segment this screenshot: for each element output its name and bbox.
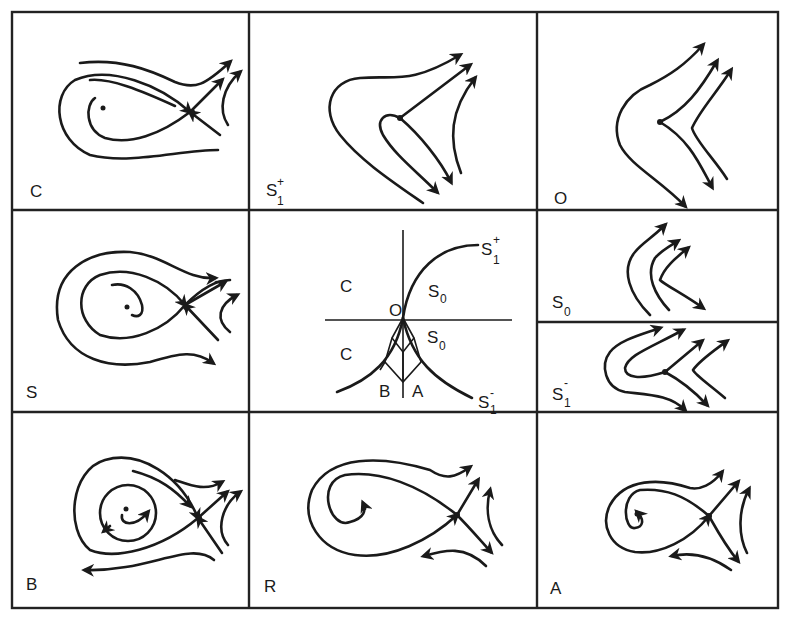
- panel-label-s1minus: S: [552, 385, 563, 404]
- phase-portrait-figure: C S + 1 O S: [0, 0, 785, 620]
- panel-label-a: A: [550, 579, 562, 598]
- diag-label-s1minus-sup: -: [490, 386, 494, 400]
- diag-label-s1minus-sub: 1: [490, 403, 497, 417]
- diag-label-origin: O: [389, 301, 402, 320]
- bifurcation-diagram: C C O S 0 S 0 B A S + 1 S - 1: [325, 230, 512, 417]
- panel-label-s1minus-sub: 1: [564, 396, 571, 410]
- panel-label-b: B: [26, 575, 37, 594]
- diag-label-s1plus-sup: +: [493, 233, 500, 247]
- panel-label-o: O: [554, 189, 567, 208]
- diag-label-s1plus-sub: 1: [493, 253, 500, 267]
- panel-label-r: R: [264, 577, 276, 596]
- diag-label-s0-upper-sub: 0: [440, 292, 447, 306]
- panel-s0: S 0: [552, 225, 703, 319]
- diag-label-s1minus: S: [478, 393, 489, 412]
- panel-label-s0-sub: 0: [564, 305, 571, 319]
- diag-label-s0-upper: S: [428, 282, 439, 301]
- diag-label-s0-lower: S: [427, 328, 438, 347]
- panel-c: C: [30, 62, 240, 201]
- panel-label-s0: S: [552, 293, 563, 312]
- panel-label-c: C: [30, 182, 42, 201]
- panel-label-s: S: [26, 383, 37, 402]
- panel-s1-plus: S + 1: [266, 55, 475, 208]
- panel-s1-minus: S - 1: [552, 328, 727, 410]
- panel-a: A: [550, 472, 749, 598]
- panel-label-s1plus: S: [266, 181, 277, 200]
- panel-o: O: [554, 45, 731, 208]
- diag-label-b: B: [379, 382, 390, 401]
- panel-r: R: [264, 460, 502, 596]
- diag-label-c-upper: C: [340, 277, 352, 296]
- panel-label-s1plus-sup: +: [277, 175, 284, 189]
- panel-s: S: [26, 252, 237, 402]
- panel-label-s1minus-sup: -: [564, 376, 568, 390]
- panel-label-s1plus-sub: 1: [277, 194, 284, 208]
- diag-label-s0-lower-sub: 0: [439, 339, 446, 353]
- diag-label-c-lower: C: [340, 345, 352, 364]
- diag-label-a: A: [412, 382, 424, 401]
- panel-b: B: [26, 458, 240, 594]
- diag-label-s1plus: S: [481, 240, 492, 259]
